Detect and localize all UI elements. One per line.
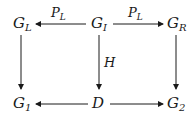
node-g-2: G2 (167, 96, 185, 113)
node-g-l-sub: L (25, 22, 32, 33)
label-p-left-sub: L (60, 12, 66, 22)
label-p-l-right: PL (128, 6, 143, 22)
node-d: D (92, 96, 104, 111)
label-h-base: H (104, 55, 115, 70)
label-p-right-base: P (128, 5, 137, 20)
node-g-i: GI (91, 16, 107, 33)
node-g-r-sub: R (179, 22, 187, 33)
node-g-1: G1 (13, 96, 31, 113)
node-d-base: D (92, 94, 104, 112)
node-g-i-sub: I (103, 22, 107, 33)
node-g-l-base: G (13, 14, 25, 32)
node-g-r-base: G (167, 14, 179, 32)
label-p-left-base: P (51, 5, 60, 20)
node-g-2-sub: 2 (179, 102, 185, 113)
label-p-right-sub: L (137, 12, 143, 22)
node-g-r: GR (167, 16, 187, 33)
label-h: H (104, 56, 115, 69)
node-g-1-sub: 1 (25, 102, 31, 113)
label-p-l-left: PL (51, 6, 66, 22)
node-g-l: GL (13, 16, 32, 33)
node-g-2-base: G (167, 94, 179, 112)
node-g-i-base: G (91, 14, 103, 32)
node-g-1-base: G (13, 94, 25, 112)
